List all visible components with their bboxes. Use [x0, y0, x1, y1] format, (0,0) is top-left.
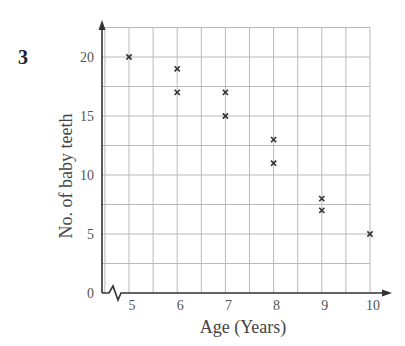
x-tick-label: 7 [225, 298, 232, 313]
x-tick-labels: 5678910 [129, 298, 381, 313]
x-tick-label: 5 [129, 298, 136, 313]
x-tick-label: 9 [321, 298, 328, 313]
x-axis-label: Age (Years) [200, 317, 287, 338]
y-tick-label: 5 [87, 227, 94, 242]
axes [99, 20, 393, 300]
y-axis-label: No. of baby teeth [56, 114, 76, 239]
y-tick-label: 15 [80, 109, 94, 124]
y-tick-label: 0 [87, 286, 94, 301]
x-tick-label: 8 [273, 298, 280, 313]
x-axis-arrow-icon [382, 290, 392, 297]
x-tick-label: 6 [177, 298, 184, 313]
y-axis-arrow-icon [99, 20, 106, 30]
question-number: 3 [18, 46, 28, 68]
y-tick-labels: 05101520 [80, 50, 94, 301]
grid [102, 28, 370, 294]
x-tick-label: 10 [366, 298, 380, 313]
scatter-chart: 3 05101520 5678910 Age (Years) No. of ba… [0, 0, 405, 346]
y-tick-label: 10 [80, 168, 94, 183]
y-tick-label: 20 [80, 50, 94, 65]
x-axis-with-break [102, 286, 383, 300]
